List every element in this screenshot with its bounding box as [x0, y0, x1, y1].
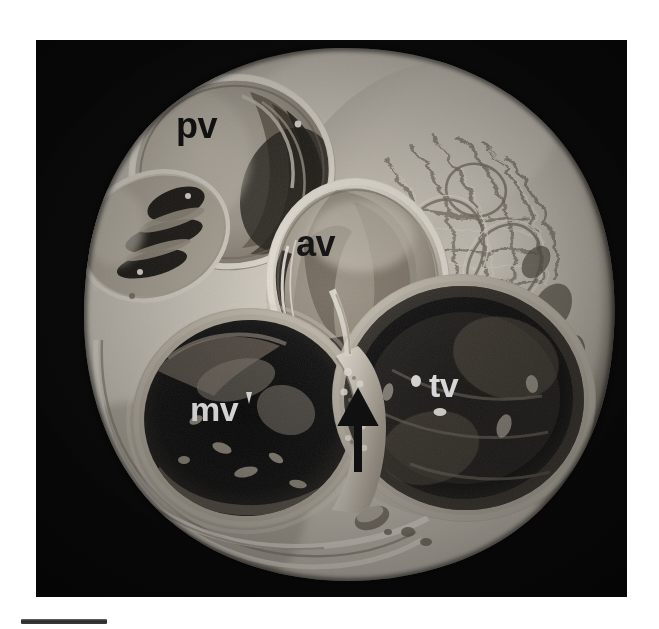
label-pv: pv: [176, 108, 217, 144]
scale-bar: [21, 619, 107, 624]
tv-dash-below-mark: [434, 408, 447, 416]
label-mv: mv: [190, 392, 238, 426]
heart-specimen-illustration: [36, 40, 627, 597]
label-tv: tv: [429, 368, 458, 402]
label-av: av: [296, 226, 335, 262]
tv-dot-left-mark: [411, 375, 421, 387]
specimen-photograph: pv av mv tv: [36, 40, 627, 597]
figure-root: pv av mv tv: [0, 0, 659, 629]
